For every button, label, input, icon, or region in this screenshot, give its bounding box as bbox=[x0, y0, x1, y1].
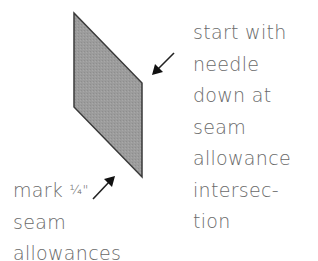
label-line: allowance bbox=[193, 143, 291, 175]
label-line: intersec- bbox=[193, 175, 291, 207]
label-line: needle bbox=[193, 49, 291, 81]
label-line: tion bbox=[193, 206, 291, 238]
label-line: allowances bbox=[13, 238, 121, 261]
seam-allowance-label: mark ¼" seam allowances bbox=[13, 174, 121, 261]
fabric-parallelogram bbox=[74, 13, 142, 177]
quarter-inch-fraction: ¼" bbox=[70, 182, 89, 197]
needle-instruction-label: start with needle down at seam allowance… bbox=[193, 17, 291, 238]
needle-arrow-icon bbox=[152, 53, 174, 75]
label-line: mark ¼" bbox=[13, 174, 121, 207]
label-line: start with bbox=[193, 17, 291, 49]
label-line: down at bbox=[193, 80, 291, 112]
label-line: seam bbox=[13, 207, 121, 239]
label-line: seam bbox=[193, 112, 291, 144]
mark-word: mark bbox=[13, 179, 63, 201]
